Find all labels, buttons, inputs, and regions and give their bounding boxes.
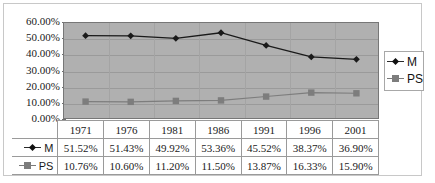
data-point-marker-square[interactable] [128,99,134,105]
table-data-cell: 51.52% [58,139,104,157]
table-data-cell: 10.60% [104,157,150,175]
row-marker-diamond-icon [24,143,41,153]
data-point-marker-diamond[interactable] [172,35,179,42]
table-data-cell: 36.90% [333,139,379,157]
data-point-marker-diamond[interactable] [353,56,360,63]
table-data-cell: 45.52% [241,139,287,157]
table-header-row: 1971197619811986199119962001 [12,121,379,139]
table-data-cell: 11.20% [149,157,195,175]
data-point-marker-square[interactable] [263,93,269,99]
chart-frame: 60.00%50.00%40.00%30.00%20.00%10.00%0.00… [3,3,422,176]
y-axis: 60.00%50.00%40.00%30.00%20.00%10.00%0.00… [10,15,60,125]
row-header-content: M [12,139,57,156]
table-data-cell: 49.92% [149,139,195,157]
table-row-header-m: M [12,139,58,157]
data-table: 1971197619811986199119962001M51.52%51.43… [12,120,379,175]
y-axis-tick-label: 40.00% [10,48,60,59]
data-point-marker-square[interactable] [218,97,224,103]
data-point-marker-square[interactable] [308,89,314,95]
data-point-marker-square[interactable] [173,98,179,104]
table-header-cell: 1981 [149,121,195,139]
data-point-marker-diamond[interactable] [308,54,315,61]
data-point-marker-diamond[interactable] [127,32,134,39]
table-row: M51.52%51.43%49.92%53.36%45.52%38.37%36.… [12,139,379,157]
y-axis-tick-label: 60.00% [10,16,60,27]
table-corner-cell [12,121,58,139]
chart-legend: M PS [384,51,424,91]
data-point-marker-square[interactable] [353,90,359,96]
row-header-label: PS [39,158,54,174]
data-point-marker-diamond[interactable] [82,32,89,39]
row-marker-square-icon [19,161,36,171]
data-point-marker-square[interactable] [82,98,88,104]
y-axis-tick-label: 30.00% [10,65,60,76]
data-point-marker-diamond[interactable] [218,29,225,36]
table-data-cell: 51.43% [104,139,150,157]
plot-area-wrapper [63,22,379,119]
table-header-cell: 1986 [195,121,241,139]
legend-marker-square-icon [387,74,404,84]
data-table-body: 1971197619811986199119962001M51.52%51.43… [12,121,379,175]
table-data-cell: 53.36% [195,139,241,157]
row-header-label: M [44,140,53,156]
legend-marker-diamond-icon [387,57,404,67]
table-header-cell: 1996 [287,121,333,139]
table-data-cell: 10.76% [58,157,104,175]
table-data-cell: 38.37% [287,139,333,157]
y-axis-tick-label: 50.00% [10,32,60,43]
legend-item-m[interactable]: M [387,55,417,69]
table-row: PS10.76%10.60%11.20%11.50%13.87%16.33%15… [12,157,379,175]
series-canvas [63,22,379,119]
table-data-cell: 16.33% [287,157,333,175]
legend-label-m: M [407,56,417,68]
legend-item-ps[interactable]: PS [387,72,423,86]
table-data-cell: 15.90% [333,157,379,175]
y-axis-tick-label: 20.00% [10,81,60,92]
y-axis-tick-label: 10.00% [10,97,60,108]
table-header-cell: 1991 [241,121,287,139]
legend-label-ps: PS [407,73,423,85]
table-data-cell: 13.87% [241,157,287,175]
table-header-cell: 1971 [58,121,104,139]
data-point-marker-diamond[interactable] [263,42,270,49]
table-header-cell: 2001 [333,121,379,139]
table-row-header-ps: PS [12,157,58,175]
table-data-cell: 11.50% [195,157,241,175]
series-line-m [86,33,357,60]
table-header-cell: 1976 [104,121,150,139]
row-header-content: PS [12,157,57,174]
